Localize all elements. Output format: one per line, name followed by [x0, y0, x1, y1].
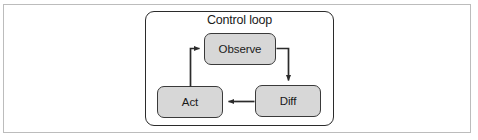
node-diff-label: Diff — [280, 95, 297, 107]
node-observe-label: Observe — [219, 43, 262, 55]
node-act-label: Act — [182, 96, 198, 108]
control-loop-group-title: Control loop — [145, 12, 334, 28]
node-observe[interactable]: Observe — [204, 33, 276, 65]
node-diff[interactable]: Diff — [255, 85, 321, 117]
node-act[interactable]: Act — [157, 86, 223, 118]
control-loop-figure: Control loop Observe Diff Act — [0, 0, 478, 140]
